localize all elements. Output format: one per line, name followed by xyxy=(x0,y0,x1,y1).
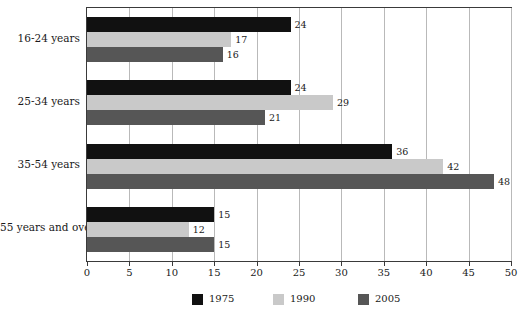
gridline-20 xyxy=(257,8,258,261)
bar-1990-55-years-and-over xyxy=(87,222,189,237)
legend-item-2005[interactable]: 2005 xyxy=(358,292,400,306)
bar-2005-16-24-years xyxy=(87,47,223,62)
bar-1990-16-24-years xyxy=(87,32,231,47)
bar-value-label: 15 xyxy=(218,207,230,222)
bar-value-label: 16 xyxy=(227,47,239,62)
gridline-35 xyxy=(384,8,385,261)
bar-value-label: 24 xyxy=(295,80,307,95)
bar-value-label: 21 xyxy=(269,110,281,125)
legend-label: 1975 xyxy=(209,293,234,305)
category-label-16-24-years: 16-24 years xyxy=(0,33,80,44)
x-tick-label-25: 25 xyxy=(293,266,306,279)
bar-1975-35-54-years xyxy=(87,144,392,159)
category-label-35-54-years: 35-54 years xyxy=(0,159,80,170)
x-tick-label-15: 15 xyxy=(208,266,221,279)
x-tick-label-50: 50 xyxy=(505,266,518,279)
x-tick-label-45: 45 xyxy=(462,266,475,279)
bar-value-label: 15 xyxy=(218,237,230,252)
bar-value-label: 12 xyxy=(193,222,205,237)
bar-1975-25-34-years xyxy=(87,80,291,95)
bar-2005-25-34-years xyxy=(87,110,265,125)
gridline-25 xyxy=(299,8,300,261)
x-tick-label-10: 10 xyxy=(165,266,178,279)
legend-item-1990[interactable]: 1990 xyxy=(273,292,315,306)
legend-label: 2005 xyxy=(375,293,400,305)
bar-value-label: 29 xyxy=(337,95,349,110)
bar-1975-55-years-and-over xyxy=(87,207,214,222)
bar-value-label: 42 xyxy=(447,159,459,174)
bar-value-label: 36 xyxy=(396,144,408,159)
gridline-30 xyxy=(341,8,342,261)
x-tick-label-30: 30 xyxy=(335,266,348,279)
legend-swatch-icon xyxy=(192,294,203,305)
bar-chart: 16-24 years25-34 years35-54 years55 year… xyxy=(0,0,522,316)
x-tick-label-5: 5 xyxy=(126,266,132,279)
bar-value-label: 17 xyxy=(235,32,247,47)
x-tick-label-20: 20 xyxy=(250,266,263,279)
bar-value-label: 48 xyxy=(498,174,510,189)
category-label-25-34-years: 25-34 years xyxy=(0,96,80,107)
bar-2005-35-54-years xyxy=(87,174,494,189)
legend-swatch-icon xyxy=(273,294,284,305)
gridline-50 xyxy=(511,8,512,261)
gridline-40 xyxy=(426,8,427,261)
legend-swatch-icon xyxy=(358,294,369,305)
bar-1990-25-34-years xyxy=(87,95,333,110)
chart-legend: 197519902005 xyxy=(0,292,522,310)
plot-area: 241716242921364248151215 xyxy=(86,7,512,262)
bar-1990-35-54-years xyxy=(87,159,443,174)
category-label-55-years-and-over: 55 years and over xyxy=(0,222,80,233)
category-axis-labels: 16-24 years25-34 years35-54 years55 year… xyxy=(0,7,80,262)
legend-label: 1990 xyxy=(290,293,315,305)
bar-1975-16-24-years xyxy=(87,17,291,32)
x-axis: 05101520253035404550 xyxy=(86,262,512,280)
gridline-45 xyxy=(469,8,470,261)
x-tick-label-40: 40 xyxy=(420,266,433,279)
legend-item-1975[interactable]: 1975 xyxy=(192,292,234,306)
bar-2005-55-years-and-over xyxy=(87,237,214,252)
x-tick-label-0: 0 xyxy=(84,266,90,279)
x-tick-label-35: 35 xyxy=(377,266,390,279)
bar-value-label: 24 xyxy=(295,17,307,32)
